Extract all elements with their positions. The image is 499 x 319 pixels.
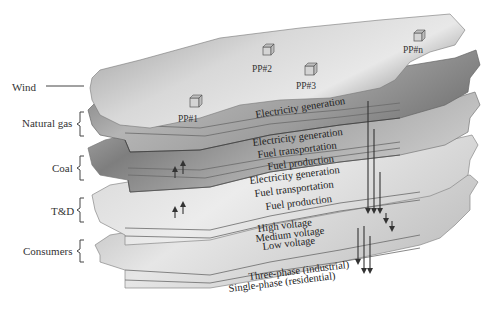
pp1-label: PP#1 — [178, 114, 198, 124]
power-plant-pp3 — [305, 63, 317, 75]
coal-side-label: Coal — [52, 162, 73, 174]
natural-gas-side-label: Natural gas — [22, 117, 72, 129]
coal-bracket — [77, 156, 84, 180]
td-bracket — [77, 198, 84, 222]
power-plant-pp2 — [263, 44, 274, 55]
pp3-label: PP#3 — [296, 81, 316, 91]
td-side-label: T&D — [51, 205, 74, 217]
ppn-label: PP#n — [403, 45, 423, 55]
power-plant-ppn — [414, 30, 425, 41]
wind-side-label: Wind — [12, 81, 36, 93]
consumers-side-label: Consumers — [23, 245, 73, 257]
pp2-label: PP#2 — [252, 64, 272, 74]
natural-gas-bracket — [77, 112, 84, 136]
consumers-bracket — [77, 240, 84, 262]
power-plant-pp1 — [190, 95, 202, 107]
energy-layers-diagram: PP#1 PP#2 PP#3 PP#n Electricity generati… — [0, 0, 499, 319]
